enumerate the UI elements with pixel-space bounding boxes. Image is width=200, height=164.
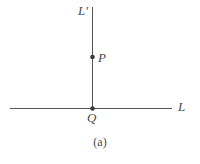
point-label-q: Q bbox=[87, 111, 96, 124]
line-label-l: L bbox=[178, 100, 185, 113]
point-p-dot bbox=[90, 55, 95, 60]
point-label-p: P bbox=[98, 51, 106, 64]
figure-caption: (a) bbox=[0, 136, 200, 148]
geometry-figure: L′ P Q L (a) bbox=[0, 0, 200, 164]
line-label-l-prime: L′ bbox=[78, 4, 88, 17]
